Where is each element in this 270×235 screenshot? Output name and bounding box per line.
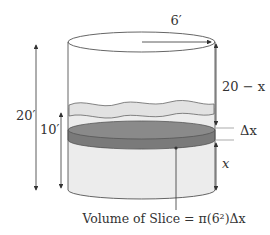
water-height-label: 10′ (40, 122, 60, 137)
volume-of-slice-caption: Volume of Slice = π(6²)Δx (81, 211, 245, 226)
slice-disk (68, 121, 215, 149)
slice-height-label: x (222, 156, 230, 171)
distance-to-top-label: 20 − x (222, 79, 266, 94)
radius-label: 6′ (170, 13, 181, 28)
slice-thickness-marker (216, 128, 234, 140)
total-height-label: 20′ (16, 108, 36, 123)
tank-diagram: 6′ 20′ 10′ 20 − x Δx x Volume of Slice =… (0, 0, 270, 235)
slice-thickness-label: Δx (240, 123, 257, 138)
